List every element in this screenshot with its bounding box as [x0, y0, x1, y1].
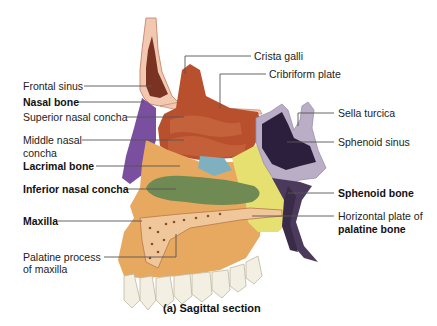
label-sphenoid-sinus: Sphenoid sinus	[338, 136, 410, 148]
tooth	[212, 270, 230, 298]
label-palatine-process-line2: of maxilla	[23, 263, 67, 275]
sagittal-section-figure: Frontal sinus Nasal bone Superior nasal …	[0, 0, 437, 326]
tooth	[140, 276, 156, 310]
leader-cribriform	[220, 74, 266, 108]
label-maxilla: Maxilla	[23, 215, 58, 227]
tooth	[192, 272, 212, 302]
label-lacrimal-bone: Lacrimal bone	[23, 160, 94, 172]
tooth	[124, 274, 140, 308]
label-inferior-nasal-concha: Inferior nasal concha	[23, 183, 129, 195]
tooth	[230, 264, 246, 292]
label-middle-nasal-concha-line2: concha	[23, 147, 57, 159]
label-nasal-bone: Nasal bone	[23, 96, 79, 108]
label-palatine-process: Palatine process	[23, 251, 101, 263]
label-sphenoid-bone: Sphenoid bone	[338, 187, 414, 199]
label-superior-nasal-concha: Superior nasal concha	[23, 111, 127, 123]
label-horizontal-plate-line2: palatine bone	[338, 223, 406, 235]
label-frontal-sinus: Frontal sinus	[23, 80, 83, 92]
label-sella-turcica: Sella turcica	[338, 107, 395, 119]
label-horizontal-plate: Horizontal plate of	[338, 210, 423, 222]
label-middle-nasal-concha: Middle nasal	[23, 134, 82, 146]
figure-caption: (a) Sagittal section	[163, 302, 261, 314]
label-crista-galli: Crista galli	[254, 50, 303, 62]
tooth	[246, 256, 262, 284]
tooth	[174, 274, 192, 304]
label-cribriform-plate: Cribriform plate	[269, 68, 341, 80]
